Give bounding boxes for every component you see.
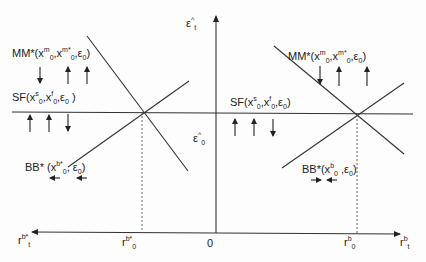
left-mm-line [87,36,188,171]
sf-line [12,112,413,114]
horizontal-axis-left [32,232,216,233]
diagram-canvas: ε^t ε^0 0 rb*t rbt rb*0 rb0 MM*(xm0,xm*0… [0,0,426,262]
right-sf-label: SF(xs0,xf0,ε0) [230,96,291,108]
epsilon-zero-label: ε^0 [193,132,205,144]
left-axis-label: rb*t [18,234,30,246]
right-bb-label: BB*(xb0 ,ε0) [302,163,357,175]
left-bb-line [68,81,189,167]
horizontal-axis-right [216,233,400,234]
left-bb-label: BB* (xb*0, ε0) [25,161,85,173]
right-mm-label: MM*(xm0,xm*0,ε0) [288,50,366,62]
left-mm-label: MM*(xm0,xm*0,ε0) [12,47,90,59]
diagram-lines [0,0,426,262]
right-axis-label: rbt [400,236,410,248]
vertical-axis-label: ε^t [186,17,196,29]
right-bb-line [282,83,404,168]
right-tick-label: rb0 [344,236,355,248]
origin-label: 0 [207,237,213,249]
left-sf-label: SF(xs0,xf0,ε0 ) [12,91,76,103]
left-tick-label: rb*0 [122,236,136,248]
right-mm-line [274,46,404,154]
